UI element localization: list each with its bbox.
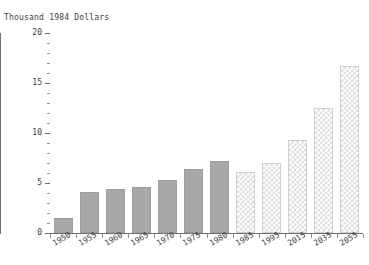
y-tick-label: 0	[14, 228, 42, 237]
y-axis-line	[0, 33, 1, 234]
x-tick	[207, 234, 208, 238]
x-tick	[50, 234, 51, 238]
bar	[236, 172, 255, 233]
x-tick	[337, 234, 338, 238]
x-tick	[102, 234, 103, 238]
bar	[132, 187, 151, 233]
plot-area	[50, 33, 363, 233]
x-tick	[180, 234, 181, 238]
bar	[210, 161, 229, 233]
y-axis-tick-labels: 05101520	[8, 0, 42, 265]
bar	[158, 180, 177, 233]
bar	[314, 108, 333, 233]
x-tick	[311, 234, 312, 238]
bar	[106, 189, 125, 233]
x-tick	[128, 234, 129, 238]
x-tick	[154, 234, 155, 238]
x-tick	[233, 234, 234, 238]
y-tick-label: 10	[14, 128, 42, 137]
bar	[54, 218, 73, 233]
x-tick	[363, 234, 364, 238]
bar	[184, 169, 203, 233]
x-tick	[76, 234, 77, 238]
bar-chart: Thousand 1984 Dollars 05101520 195019551…	[0, 0, 369, 265]
y-tick-label: 20	[14, 28, 42, 37]
y-tick-label: 5	[14, 178, 42, 187]
x-tick	[259, 234, 260, 238]
y-tick-label: 15	[14, 78, 42, 87]
bar	[262, 163, 281, 233]
bar	[288, 140, 307, 233]
x-tick	[285, 234, 286, 238]
bar	[340, 66, 359, 233]
bar	[80, 192, 99, 233]
